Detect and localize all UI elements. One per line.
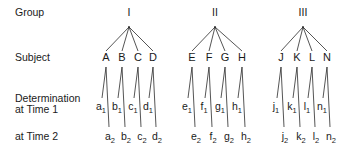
subject-label-J: J [278,51,284,63]
time1-label-e: e1 [182,100,192,115]
row-label-time1: at Time 1 [15,103,58,115]
time1-line [221,67,225,98]
time1-label-j: j1 [272,100,280,115]
time2-line [138,67,141,127]
time1-line [293,67,297,98]
subject-label-L: L [309,51,315,63]
group-trees: IAa1a2Bb1b2Cc1c2Dd1d2IIEe1e2Ff1f2Gg1g2Hh… [96,6,336,145]
time1-label-b: b1 [112,100,122,115]
time2-line [281,67,284,127]
time2-label-n: n2 [326,130,336,145]
time2-line [153,67,156,127]
time2-label-c: c2 [137,130,146,145]
time1-line [149,67,153,98]
branch-line [303,27,312,51]
branch-line [215,27,225,51]
subject-label-B: B [118,51,125,63]
row-label-group: Group [15,6,44,18]
subject-label-K: K [293,51,301,63]
time2-line [312,67,315,127]
time2-label-h: h2 [241,130,251,145]
group-I: IAa1a2Bb1b2Cc1c2Dd1d2 [96,6,162,145]
time1-label-g: g1 [215,100,225,115]
time1-line [308,67,312,98]
time1-label-d: d1 [143,100,153,115]
time1-line [188,67,192,98]
time1-line [102,67,106,98]
apex-node [128,26,130,28]
subject-label-C: C [134,51,142,63]
time2-label-j: j2 [281,130,289,145]
subject-label-N: N [323,51,331,63]
nested-design-diagram: Group Subject Determination at Time 1 at… [0,0,351,149]
subject-label-D: D [149,51,157,63]
time2-line [297,67,300,127]
branch-line [192,27,215,51]
group-label: II [212,6,218,18]
time2-line [106,67,109,127]
time1-label-h: h1 [232,100,242,115]
time2-label-d: d2 [152,130,162,145]
time1-label-l: l1 [304,100,311,115]
time1-line [134,67,138,98]
time1-label-c: c1 [128,100,137,115]
apex-node [302,26,304,28]
time2-label-f: f2 [209,130,216,145]
time1-line [238,67,242,98]
time1-label-f: f1 [200,100,207,115]
time2-line [209,67,212,127]
branch-line [215,27,242,51]
subject-label-F: F [206,51,213,63]
time2-label-g: g2 [224,130,234,145]
time1-line [323,67,327,98]
branch-line [129,27,153,51]
time2-line [327,67,330,127]
group-label: III [299,6,308,18]
time2-label-e: e2 [191,130,201,145]
time1-label-a: a1 [96,100,106,115]
group-II: IIEe1e2Ff1f2Gg1g2Hh1h2 [182,6,251,145]
row-label-time2: at Time 2 [15,130,58,142]
time1-line [205,67,209,98]
time2-line [242,67,245,127]
subject-label-A: A [102,51,110,63]
subject-label-H: H [238,51,246,63]
time2-label-a: a2 [105,130,115,145]
time1-line [118,67,122,98]
subject-label-E: E [188,51,195,63]
time2-line [122,67,125,127]
time2-line [192,67,195,127]
group-label: I [128,6,131,18]
subject-label-G: G [221,51,230,63]
time1-line [277,67,281,98]
branch-line [303,27,327,51]
apex-node [214,26,216,28]
time2-label-k: k2 [296,130,305,145]
time2-label-b: b2 [121,130,131,145]
row-label-subject: Subject [15,51,50,63]
time2-line [225,67,228,127]
time2-label-l: l2 [313,130,320,145]
time1-label-n: n1 [317,100,327,115]
time1-label-k: k1 [287,100,296,115]
group-III: IIIJj1j2Kk1k2Ll1l2Nn1n2 [272,6,336,145]
branch-line [129,27,138,51]
